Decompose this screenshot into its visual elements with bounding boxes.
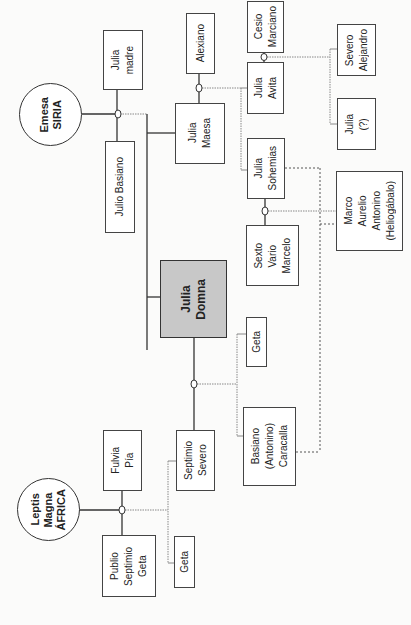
- person-julia-maesa: Julia Maesa: [175, 103, 225, 164]
- place-label: Leptis Magna ÁFRICA: [29, 489, 68, 531]
- person-heliogabalo: Marco Aurelio Antonino (Heliogábalo): [336, 171, 403, 251]
- person-julio-basiano: Julio Basiano: [105, 141, 135, 233]
- place-label: Emesa SIRIA: [38, 97, 64, 132]
- person-julia-avita: Julia Avita: [247, 62, 284, 114]
- person-julia-unknown: Julia (?): [337, 98, 376, 150]
- place-leptis-magna-africa: Leptis Magna ÁFRICA: [17, 478, 80, 541]
- person-julia-madre: Julia madre: [103, 30, 143, 90]
- person-geta-brother: Geta: [174, 536, 195, 588]
- person-sexto-vario-marcelo: Sexto Vario Marcelo: [246, 225, 299, 286]
- person-fulvia-pia: Fulvia Pía: [103, 430, 142, 491]
- person-cesio-marciano: Cesio Marciano: [247, 1, 284, 53]
- person-julia-domna: Julia Domna: [160, 260, 227, 338]
- person-alexiano: Alexiano: [186, 13, 215, 74]
- family-tree-diagram: Emesa SIRIA Leptis Magna ÁFRICA Julia ma…: [0, 0, 411, 625]
- person-severo-alejandro: Severo Alejandro: [337, 24, 376, 76]
- place-emesa-siria: Emesa SIRIA: [19, 83, 82, 146]
- person-caracalla: Basiano (Antonino) Caracalla: [243, 407, 296, 486]
- person-julia-sohemias: Julia Sohemias: [247, 138, 285, 199]
- person-geta-son: Geta: [246, 317, 267, 367]
- person-septimio-severo: Septimio Severo: [176, 430, 215, 491]
- person-publio-septimio-geta: Publio Septimio Geta: [102, 535, 156, 597]
